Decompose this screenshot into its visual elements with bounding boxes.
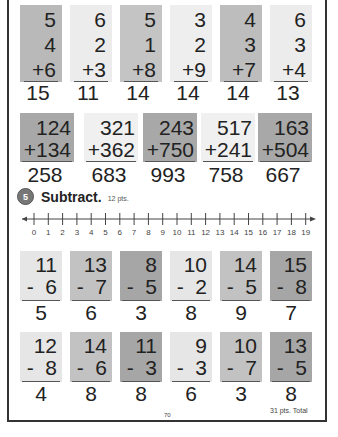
subtrahend: - 6	[77, 357, 107, 379]
minuend: 11	[135, 335, 157, 357]
answer: 6	[170, 383, 212, 405]
minuend: 13	[84, 254, 107, 276]
answer: 993	[143, 164, 193, 186]
addend: 517	[217, 117, 252, 139]
addition-card: 62+3	[70, 5, 112, 82]
subtraction-card: 10- 7	[220, 332, 262, 382]
addend: 4	[44, 34, 56, 56]
addend: +7	[232, 59, 256, 81]
answer: 14	[168, 82, 208, 104]
number-line: 012345678910111213141516171819	[22, 210, 316, 240]
addend: +241	[205, 139, 252, 161]
addend: 6	[294, 9, 306, 31]
tick-label: 1	[46, 228, 50, 237]
addend: 5	[44, 9, 56, 31]
addition-card: 124+134	[20, 113, 74, 162]
tick-label: 12	[201, 228, 210, 237]
subtrahend: - 6	[27, 276, 57, 298]
subtraction-card: 11- 6	[20, 251, 62, 301]
tick-label: 18	[287, 228, 296, 237]
addend: +4	[282, 59, 306, 81]
subtraction-card: 15- 8	[270, 251, 312, 301]
addend: 163	[274, 117, 309, 139]
addend: +134	[24, 139, 71, 161]
tick-label: 7	[132, 228, 136, 237]
page-number: 70	[164, 412, 171, 418]
tick-label: 15	[244, 228, 253, 237]
addend: +504	[262, 139, 309, 161]
minuend: 15	[284, 254, 307, 276]
minuend: 12	[34, 335, 57, 357]
minuend: 10	[234, 335, 257, 357]
subtrahend: - 7	[227, 357, 257, 379]
tick-label: 13	[215, 228, 224, 237]
addition-card: 43+7	[220, 5, 262, 82]
addend: +9	[182, 59, 206, 81]
minuend: 11	[35, 254, 57, 276]
tick-label: 4	[89, 228, 93, 237]
addend: +6	[32, 59, 56, 81]
number-line-axis	[22, 210, 316, 230]
addend: 3	[194, 9, 206, 31]
minuend: 9	[195, 335, 207, 357]
tick-label: 5	[103, 228, 107, 237]
tick-label: 11	[187, 228, 195, 237]
addend: 2	[94, 34, 106, 56]
addition-card: 54+6	[20, 5, 62, 82]
section-number-badge: 5	[17, 188, 34, 205]
addition-card: 321+362	[84, 113, 138, 162]
addition-card: 163+504	[258, 113, 312, 162]
answer: 8	[170, 302, 212, 324]
subtrahend: - 7	[77, 276, 107, 298]
total-points: 31 pts. Total	[270, 407, 308, 414]
minuend: 13	[284, 335, 307, 357]
addend: +750	[147, 139, 194, 161]
addend: +8	[132, 59, 156, 81]
sum-line	[145, 161, 195, 162]
addend: 3	[244, 34, 256, 56]
addend: 3	[294, 34, 306, 56]
answer: 5	[20, 302, 62, 324]
sum-line	[86, 161, 136, 162]
sum-line	[22, 161, 72, 162]
subtraction-card: 10- 2	[170, 251, 212, 301]
tick-label: 9	[160, 228, 164, 237]
subtrahend: - 5	[127, 276, 157, 298]
answer: 258	[20, 164, 70, 186]
addition-card: 517+241	[201, 113, 255, 162]
sum-line	[260, 161, 310, 162]
tick-label: 0	[32, 228, 36, 237]
subtraction-card: 8- 5	[120, 251, 162, 301]
addend: +362	[88, 139, 135, 161]
answer: 8	[270, 383, 312, 405]
addend: 321	[100, 117, 135, 139]
minuend: 10	[184, 254, 207, 276]
tick-label: 19	[301, 228, 310, 237]
tick-label: 6	[118, 228, 122, 237]
answer: 667	[258, 164, 308, 186]
minuend: 14	[234, 254, 257, 276]
subtraction-card: 12- 8	[20, 332, 62, 382]
tick-label: 3	[75, 228, 79, 237]
subtrahend: - 2	[177, 276, 207, 298]
answer: 15	[18, 82, 58, 104]
addend: 4	[244, 9, 256, 31]
subtraction-card: 13- 5	[270, 332, 312, 382]
subtraction-card: 14- 5	[220, 251, 262, 301]
addition-card: 51+8	[120, 5, 162, 82]
subtrahend: - 3	[127, 357, 157, 379]
tick-label: 16	[258, 228, 267, 237]
minuend: 8	[145, 254, 157, 276]
subtraction-card: 9- 3	[170, 332, 212, 382]
minuend: 14	[84, 335, 107, 357]
subtraction-card: 14- 6	[70, 332, 112, 382]
answer: 9	[220, 302, 262, 324]
sum-line	[203, 161, 253, 162]
tick-label: 10	[173, 228, 182, 237]
answer: 758	[201, 164, 251, 186]
answer: 4	[20, 383, 62, 405]
addend: 1	[144, 34, 156, 56]
addition-card: 63+4	[270, 5, 312, 82]
section-header: 5 Subtract. 12 pts.	[17, 188, 129, 205]
subtrahend: - 8	[277, 276, 307, 298]
